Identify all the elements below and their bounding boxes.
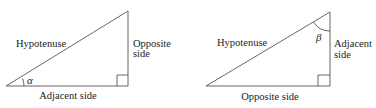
right-opposite-label: Opposite side bbox=[241, 91, 299, 102]
left-opposite-label-line2: side bbox=[133, 48, 150, 59]
right-hypotenuse-label: Hypotenuse bbox=[217, 37, 267, 48]
right-right-angle-marker bbox=[318, 75, 330, 86]
right-adjacent-label-line1: Adjacent bbox=[334, 38, 372, 49]
alpha-arc bbox=[23, 79, 25, 87]
right-triangle-outline bbox=[206, 12, 330, 86]
right-triangle bbox=[206, 12, 330, 86]
trig-diagram: Hypotenuse Opposite side Adjacent side α… bbox=[0, 0, 376, 108]
alpha-label: α bbox=[27, 74, 33, 86]
left-adjacent-label: Adjacent side bbox=[39, 90, 97, 101]
beta-label: β bbox=[315, 31, 322, 43]
right-adjacent-label-line2: side bbox=[334, 49, 351, 60]
left-hypotenuse-label: Hypotenuse bbox=[16, 38, 66, 49]
beta-arc bbox=[314, 22, 331, 31]
left-right-angle-marker bbox=[117, 75, 128, 86]
diagram-canvas: Hypotenuse Opposite side Adjacent side α… bbox=[0, 0, 376, 108]
